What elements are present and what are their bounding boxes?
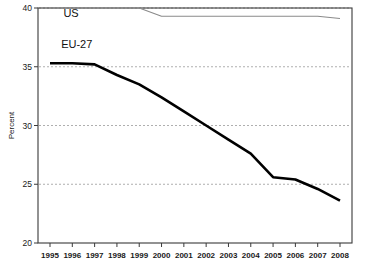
x-tick-label-2008: 2008 <box>331 251 349 260</box>
x-tick-label-1995: 1995 <box>41 251 59 260</box>
x-tick-label-2004: 2004 <box>242 251 260 260</box>
x-tick-label-2006: 2006 <box>286 251 304 260</box>
line-chart: 2025303540 19951996199719981999200020012… <box>0 0 366 275</box>
x-tick-label-2002: 2002 <box>197 251 215 260</box>
y-tick-label-40: 40 <box>23 3 33 13</box>
x-tick-label-1998: 1998 <box>108 251 126 260</box>
y-tick-label-20: 20 <box>23 238 33 248</box>
series-label-eu-27: EU-27 <box>61 38 92 50</box>
x-tick-label-2001: 2001 <box>175 251 193 260</box>
x-tick-label-2007: 2007 <box>309 251 327 260</box>
x-tick-label-2000: 2000 <box>153 251 171 260</box>
x-tick-label-1999: 1999 <box>130 251 148 260</box>
y-tick-label-25: 25 <box>23 179 33 189</box>
y-tick-label-35: 35 <box>23 62 33 72</box>
chart-background <box>0 0 366 275</box>
x-tick-label-1997: 1997 <box>86 251 104 260</box>
y-axis-title: Percent <box>7 111 16 139</box>
x-tick-label-1996: 1996 <box>63 251 81 260</box>
x-tick-label-2005: 2005 <box>264 251 282 260</box>
y-tick-label-30: 30 <box>23 121 33 131</box>
x-tick-label-2003: 2003 <box>220 251 238 260</box>
series-label-us: US <box>63 7 78 19</box>
chart-canvas: 2025303540 19951996199719981999200020012… <box>0 0 366 275</box>
